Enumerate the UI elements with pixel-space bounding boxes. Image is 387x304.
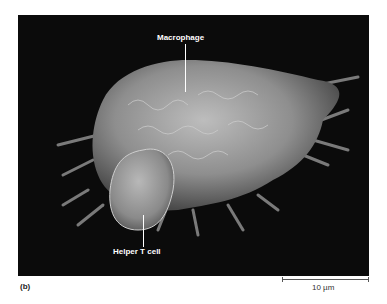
helper-t-cell-label: Helper T cell <box>113 247 161 256</box>
sem-micrograph: Macrophage Helper T cell <box>18 15 369 276</box>
macrophage-label: Macrophage <box>157 33 204 42</box>
macrophage-leader-line <box>185 44 186 92</box>
scale-bar <box>282 279 369 280</box>
t-cell-leader-line <box>143 215 144 247</box>
cell-illustration <box>18 15 369 276</box>
panel-label: (b) <box>20 282 30 291</box>
scale-bar-label: 10 µm <box>312 283 334 292</box>
